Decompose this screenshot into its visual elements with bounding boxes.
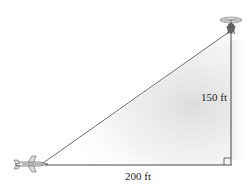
horizontal-side-label: 200 ft: [125, 170, 151, 182]
vertical-side-label: 150 ft: [201, 91, 227, 103]
side-shade: [231, 40, 249, 160]
airplane-icon: [14, 156, 48, 172]
triangle-diagram: 150 ft 200 ft: [0, 0, 249, 187]
helicopter-icon: [220, 17, 242, 34]
